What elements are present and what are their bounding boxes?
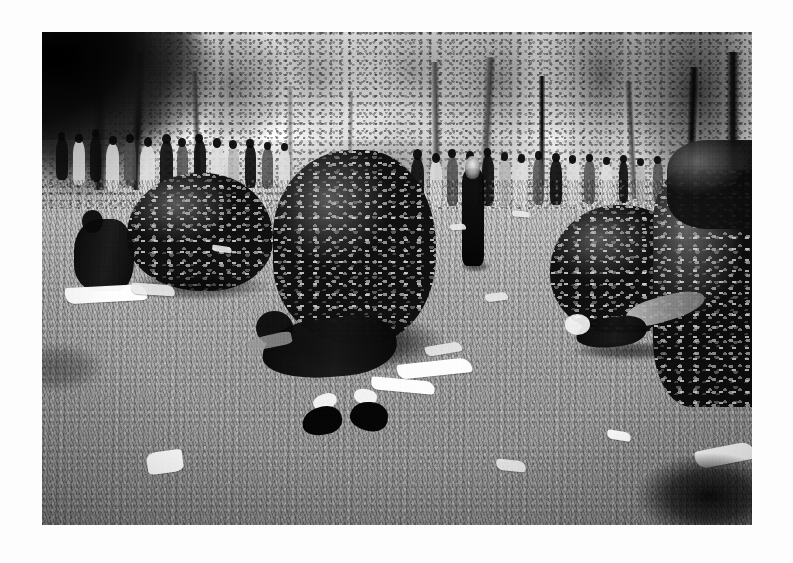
crowd-figure-head <box>264 142 271 150</box>
crowd-figure-head <box>281 143 288 151</box>
crowd-figure-head <box>413 149 422 159</box>
seated-figure-left <box>74 219 134 290</box>
crowd-figure-head <box>432 153 440 163</box>
walking-figure <box>462 168 483 267</box>
crowd-figure-head <box>246 139 253 148</box>
crowd-figure-head <box>195 134 203 143</box>
reclining-figure-right-shadow <box>560 340 702 362</box>
seated-figure-left-head <box>82 210 103 233</box>
crowd-figure-head <box>603 157 610 165</box>
walking-figure-shadow <box>457 260 494 273</box>
crowd-figure-head <box>569 155 576 163</box>
crowd-figure-head <box>586 154 593 162</box>
caption-area <box>42 527 752 561</box>
photograph <box>42 32 752 525</box>
crowd-figure-head <box>126 134 134 143</box>
crowd-figure <box>73 140 85 184</box>
crowd-figure-head <box>75 134 83 143</box>
crowd-figure-head <box>448 149 456 158</box>
crowd-figure-head <box>162 134 171 144</box>
crowd-figure-head <box>552 153 560 162</box>
crowd-figure-head <box>213 138 221 147</box>
foreground-shadow-left <box>42 338 113 397</box>
crowd-figure <box>56 138 67 180</box>
reclining-figure-right-head <box>565 314 591 335</box>
walking-figure-hair <box>465 156 480 179</box>
hedge-upper-right <box>667 140 752 229</box>
photo-page <box>0 0 793 563</box>
crowd-figure-head <box>535 151 542 160</box>
foreground-shadow-right <box>624 446 752 525</box>
crowd-figure <box>90 136 101 183</box>
crowd-figure-head <box>178 138 186 147</box>
